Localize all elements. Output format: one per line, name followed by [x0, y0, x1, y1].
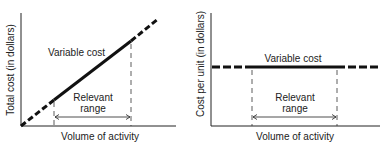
variable-cost-line-dashed-upper [131, 19, 158, 41]
unit-cost-chart: Variable cost Relevant range Volume of a… [195, 11, 380, 142]
total-cost-chart: Variable cost Relevant range Volume of a… [5, 13, 176, 142]
range-label: range [282, 103, 308, 114]
relevant-label: Relevant [73, 92, 113, 103]
range-label: range [80, 103, 106, 114]
cost-behavior-diagrams: Variable cost Relevant range Volume of a… [0, 0, 383, 149]
variable-cost-label: Variable cost [48, 47, 105, 58]
relevant-label: Relevant [275, 92, 315, 103]
x-axis-label: Volume of activity [61, 131, 139, 142]
y-axis-label: Cost per unit (in dollars) [195, 11, 206, 117]
variable-cost-label: Variable cost [264, 53, 321, 64]
x-axis-label: Volume of activity [256, 131, 334, 142]
variable-cost-line-dashed-lower [21, 100, 54, 126]
y-axis-label: Total cost (in dollars) [5, 24, 16, 116]
